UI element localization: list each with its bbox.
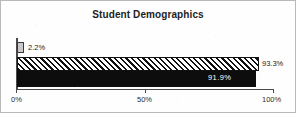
x-tick-0 — [16, 89, 17, 93]
bar-series-1 — [17, 42, 24, 53]
x-tick-label-50: 50% — [137, 95, 152, 104]
x-tick-label-100: 100% — [262, 95, 281, 104]
x-tick-100 — [273, 89, 274, 93]
chart-frame: Student Demographics 2.2% 93.3% 91.9% 0%… — [0, 0, 296, 113]
bar-series-2 — [17, 57, 259, 71]
plot-area: 2.2% 93.3% 91.9% 0% 50% 100% — [1, 1, 296, 113]
bar-label-series-1: 2.2% — [28, 43, 45, 52]
bar-label-series-3: 91.9% — [208, 73, 231, 82]
bar-label-series-2: 93.3% — [262, 59, 283, 68]
x-tick-label-0: 0% — [11, 95, 22, 104]
x-tick-50 — [145, 89, 146, 93]
